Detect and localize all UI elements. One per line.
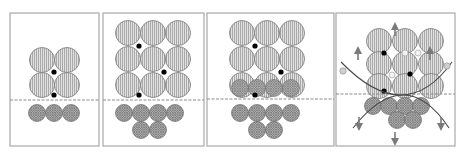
large-grain [30,73,55,98]
large-grain [141,21,166,46]
large-grain [141,73,166,98]
junction-dot [161,69,166,74]
junction-dot [51,69,56,74]
overlapping-small-grain [266,80,283,97]
small-grain [150,122,167,139]
small-grain [405,112,422,129]
large-grain [166,47,191,72]
large-grain [166,73,191,98]
small-grain [116,105,133,122]
panel-frame [10,13,99,146]
panel-2 [103,13,204,146]
junction-dot [252,43,257,48]
small-grain [167,105,184,122]
side-marker [340,68,346,74]
large-grain [367,29,392,54]
small-grain [133,122,150,139]
large-grain [280,21,305,46]
hollow-marker [402,50,408,56]
small-grain [389,112,406,129]
small-grain [63,105,80,122]
overlapping-small-grain [232,80,249,97]
junction-dot [136,92,141,97]
small-grain [150,105,167,122]
junction-dot [381,50,386,55]
small-grain [232,105,249,122]
grain-convergence-diagram [0,0,462,156]
small-grain [133,105,150,122]
large-grain [419,29,444,54]
junction-dot [136,43,141,48]
junction-dot [407,71,412,76]
junction-dot [278,69,283,74]
large-grain [141,47,166,72]
large-grain [30,48,55,73]
hollow-marker [389,72,395,78]
panel-4 [336,13,455,146]
large-grain [255,47,280,72]
small-grain [266,122,283,139]
diagram-stage [0,0,462,156]
junction-dot [252,92,257,97]
large-grain [419,52,444,77]
small-grain [46,105,63,122]
panel-1 [10,13,99,146]
large-grain [230,21,255,46]
small-grain [283,105,300,122]
large-grain [280,47,305,72]
large-grain [116,21,141,46]
large-grain [55,48,80,73]
large-grain [55,73,80,98]
small-grain [249,122,266,139]
side-marker [444,63,450,69]
large-grain [367,52,392,77]
large-grain [116,47,141,72]
junction-dot [51,92,56,97]
small-grain [266,105,283,122]
large-grain [166,21,191,46]
small-grain [29,105,46,122]
small-grain [249,105,266,122]
overlapping-small-grain [283,80,300,97]
hollow-marker [415,50,421,56]
large-grain [255,21,280,46]
panel-3 [207,13,334,146]
large-grain [230,47,255,72]
